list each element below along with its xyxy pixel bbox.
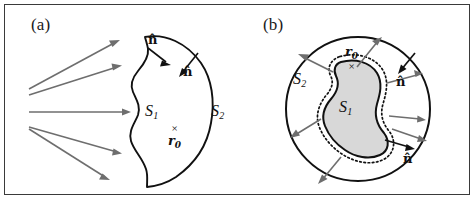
- panel-b-r0-cross-marker: ×: [345, 61, 358, 72]
- figure-frame: (a) S1 S2 n̂ n̂ × r0: [4, 4, 470, 195]
- radiating-ray-right-lower: [392, 129, 427, 142]
- incident-ray-group: [29, 40, 131, 180]
- panel-a-label: (a): [31, 15, 50, 35]
- panel-b-r0-label: r0: [345, 45, 358, 61]
- radiating-ray-right-mid: [389, 116, 426, 123]
- inner-blob-fill: [323, 60, 387, 157]
- incident-ray-5: [29, 129, 110, 180]
- normal-arrow-upper-a: [148, 48, 171, 67]
- panel-a-point-r0: × r0: [168, 123, 181, 150]
- incident-ray-1: [29, 40, 120, 89]
- panel-a-normal-label-upper: n̂: [148, 33, 157, 46]
- incident-ray-3: [29, 109, 131, 116]
- incident-ray-4: [29, 127, 122, 156]
- panel-b-label: (b): [263, 15, 283, 35]
- panel-a-r0-label: r0: [168, 134, 181, 150]
- panel-b-surface-label-s1: S1: [339, 99, 352, 117]
- panel-b-point-r0: r0 ×: [345, 45, 358, 72]
- panel-b-surface-label-s2: S2: [293, 71, 306, 89]
- figure-root: (a) S1 S2 n̂ n̂ × r0: [0, 0, 476, 201]
- radiating-ray-up: [357, 37, 382, 67]
- panel-a-surface-label-s2: S2: [211, 103, 224, 121]
- panel-b: (b) S1 S2 n̂ n̂ r0 ×: [237, 5, 469, 196]
- normal-arrow-inner-b: [385, 140, 415, 151]
- panel-b-normal-label-outer: n̂: [396, 75, 405, 88]
- incident-ray-2: [29, 64, 122, 96]
- radiating-ray-left-mid: [290, 119, 321, 138]
- panel-a-surface-label-s1: S1: [145, 103, 158, 121]
- surface-contour-a: [130, 36, 212, 187]
- panel-b-normal-label-inner: n̂: [403, 152, 412, 165]
- panel-a-normal-label-inner: n̂: [183, 65, 192, 78]
- panel-a: (a) S1 S2 n̂ n̂ × r0: [5, 5, 237, 196]
